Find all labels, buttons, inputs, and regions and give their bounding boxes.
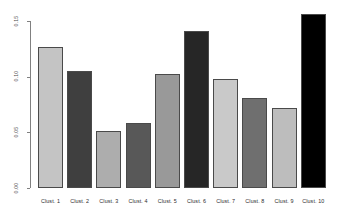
bar	[242, 98, 267, 188]
y-axis-tick-label: 0.15	[13, 12, 19, 30]
y-axis-tick	[27, 77, 30, 78]
y-axis-tick-label: 0.10	[13, 67, 19, 85]
y-axis-tick	[27, 188, 30, 189]
y-axis-tick	[27, 132, 30, 133]
bar	[126, 123, 151, 188]
y-axis-tick-label: 0.00	[13, 179, 19, 197]
bar-chart: 0.000.050.100.15Clust. 1Clust. 2Clust. 3…	[0, 0, 343, 218]
bar	[184, 31, 209, 188]
bar	[272, 108, 297, 188]
bar	[38, 47, 63, 188]
x-axis-category-label: Clust. 10	[293, 198, 333, 204]
bar	[96, 131, 121, 188]
bar	[301, 14, 326, 188]
bar	[213, 79, 238, 188]
bar	[67, 71, 92, 188]
y-axis-tick-label: 0.05	[13, 123, 19, 141]
bar	[155, 74, 180, 188]
y-axis-tick	[27, 21, 30, 22]
y-axis-line	[30, 21, 31, 188]
